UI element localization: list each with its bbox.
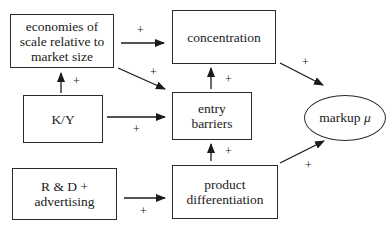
node-product-diff-line1: product [187, 177, 264, 192]
node-entry-barriers-line1: entry [191, 101, 232, 116]
edge-product-diff-markup [280, 141, 324, 163]
node-ky: K/Y [23, 95, 103, 143]
sign-economies-entry-barriers: + [150, 66, 157, 78]
node-economies-line3: market size [20, 49, 105, 64]
node-economies-line2: scale relative to [20, 34, 105, 49]
node-markup: markup μ [304, 95, 386, 141]
node-economies-of-scale: economies of scale relative to market si… [10, 14, 114, 68]
sign-economies-concentration: + [137, 24, 144, 36]
sign-ky-entry-barriers: + [133, 123, 140, 135]
sign-ky-economies: + [73, 75, 80, 87]
node-rd-advertising: R & D + advertising [12, 168, 117, 220]
sign-concentration-markup: + [302, 56, 309, 68]
sign-entry-barriers-concentration: + [225, 73, 232, 85]
node-rd-line1: R & D + [35, 179, 95, 194]
sign-product-diff-entry-barriers: + [225, 145, 232, 157]
node-concentration-label: concentration [187, 30, 260, 45]
node-rd-line2: advertising [35, 194, 95, 209]
sign-product-diff-markup: + [305, 159, 312, 171]
node-product-differentiation: product differentiation [172, 165, 278, 219]
node-economies-line1: economies of [20, 19, 105, 34]
sign-rd-product-diff: + [140, 205, 147, 217]
node-entry-barriers-line2: barriers [191, 116, 232, 131]
node-concentration: concentration [172, 10, 276, 64]
node-markup-label: markup [319, 110, 360, 125]
node-ky-label: K/Y [51, 112, 74, 127]
edge-economies-entry-barriers [118, 68, 165, 89]
node-entry-barriers: entry barriers [172, 92, 252, 140]
node-markup-symbol: μ [364, 110, 371, 125]
node-product-diff-line2: differentiation [187, 192, 264, 207]
